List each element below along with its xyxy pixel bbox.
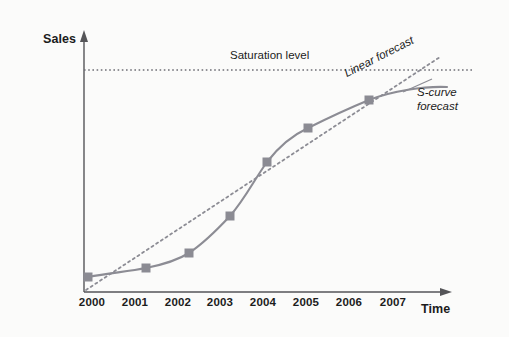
saturation-level-label: Saturation level [230,50,309,62]
scurve-forecast-label-line2: forecast [417,99,458,113]
y-axis-title: Sales [43,33,76,46]
data-point-marker [185,249,194,258]
x-tick-label-2004: 2004 [243,297,283,309]
x-tick-label-2007: 2007 [373,297,413,309]
x-axis [84,288,452,296]
x-tick-label-2003: 2003 [200,297,240,309]
x-tick-label-2006: 2006 [329,297,369,309]
y-axis [80,30,88,292]
data-point-markers [84,96,374,282]
data-point-marker [142,264,151,273]
data-point-marker [226,212,235,221]
linear-forecast-line [86,57,440,290]
scurve-forecast-label: S-curve forecast [417,85,458,113]
scurve-forecast-label-line1: S-curve [417,85,458,99]
data-point-marker [365,96,374,105]
x-axis-title: Time [421,303,450,316]
x-tick-label-2002: 2002 [158,297,198,309]
data-point-marker [263,158,272,167]
data-point-marker [84,273,93,282]
chart-figure: Sales Time Saturation level Linear forec… [0,0,509,337]
data-point-marker [304,124,313,133]
scurve-forecast-line [88,87,447,277]
x-tick-label-2005: 2005 [286,297,326,309]
x-tick-label-2001: 2001 [115,297,155,309]
x-tick-label-2000: 2000 [72,297,112,309]
